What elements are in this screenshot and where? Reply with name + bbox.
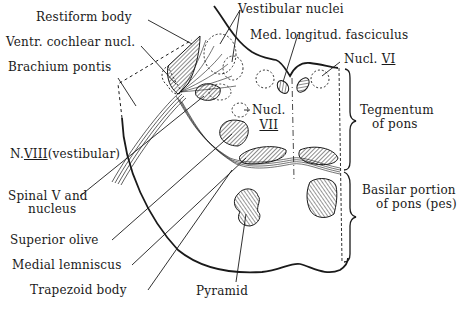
pyramid-left <box>234 189 260 226</box>
label-ventr-cochlear-nucl: Ventr. cochlear nucl. <box>6 36 135 49</box>
spinal-v-shape <box>195 84 220 101</box>
label-brachium-pontis: Brachium pontis <box>8 61 111 74</box>
label-nucl-vi-prefix: Nucl. <box>344 52 378 66</box>
label-spinal-v-line2: nucleus <box>8 203 88 216</box>
label-pyramid: Pyramid <box>196 285 248 298</box>
label-basilar-line1: Basilar portion <box>362 183 457 197</box>
label-nucl-vi-numeral: VI <box>382 52 396 66</box>
pyramid-right <box>307 179 337 218</box>
label-trapezoid-body: Trapezoid body <box>30 284 127 297</box>
label-n-viii-numeral: VIII <box>24 147 48 161</box>
label-nucl-vii-prefix: Nucl. <box>252 103 286 118</box>
label-basilar-portion: Basilar portion of pons (pes) <box>362 183 457 211</box>
label-medial-lemniscus: Medial lemniscus <box>12 259 122 272</box>
label-vestibular-nuclei: Vestibular nuclei <box>238 3 344 16</box>
label-restiform-body: Restiform body <box>36 11 132 24</box>
label-n-viii-suffix: (vestibular) <box>48 147 121 161</box>
midline <box>292 78 294 180</box>
label-superior-olive: Superior olive <box>10 234 99 247</box>
label-nucl-vii-numeral: VII <box>252 118 286 133</box>
label-n-viii-prefix: N. <box>10 147 24 161</box>
mlf-right <box>294 76 311 95</box>
label-med-longitud-fasciculus: Med. longitud. fasciculus <box>250 29 408 42</box>
medial-lemniscus-right <box>299 147 338 164</box>
label-tegmentum-line1: Tegmentum <box>360 103 434 117</box>
label-nucl-vi: Nucl. VI <box>344 53 395 66</box>
label-spinal-v-and-nucleus: Spinal V and nucleus <box>8 190 88 216</box>
vestibular-nuclei-regions <box>204 34 243 80</box>
right-border-dashed <box>339 68 342 262</box>
basilar-brace <box>344 172 356 262</box>
label-tegmentum: Tegmentum of pons <box>360 103 434 131</box>
label-nucl-vii: Nucl. VII <box>252 103 286 133</box>
label-n-viii-vestibular: N.VIII(vestibular) <box>10 148 120 161</box>
superior-olive-shape <box>220 120 249 146</box>
label-basilar-line2: of pons (pes) <box>362 197 457 211</box>
label-tegmentum-line2: of pons <box>360 117 434 131</box>
tegmentum-brace <box>344 69 356 170</box>
